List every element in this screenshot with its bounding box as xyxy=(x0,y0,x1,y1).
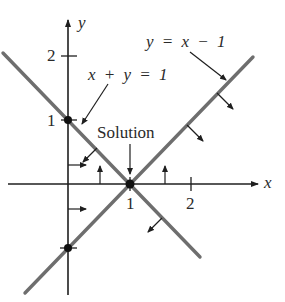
point-0-neg1 xyxy=(64,244,72,252)
equation-label-y-eq-x-minus-1: y = x − 1 xyxy=(146,33,226,50)
normal-arrow-icon xyxy=(148,218,162,232)
normal-arrow-icon xyxy=(83,148,97,162)
x-axis-label: x xyxy=(264,174,272,191)
equation-label-x-plus-y: x + y = 1 xyxy=(88,66,168,83)
point-solution xyxy=(126,180,135,189)
diagram-canvas xyxy=(0,0,285,302)
normal-arrow-icon xyxy=(217,93,233,109)
x-tick-label-2: 2 xyxy=(186,195,195,212)
y-axis-label: y xyxy=(78,14,86,31)
label-pointer-x-plus-y xyxy=(82,84,108,124)
normal-arrow-icon xyxy=(187,125,203,141)
line-y-equals-x-minus-1 xyxy=(25,57,253,293)
x-tick-label-1: 1 xyxy=(126,195,135,212)
y-tick-label-2: 2 xyxy=(47,47,56,64)
y-tick-label-1: 1 xyxy=(47,112,56,129)
solution-label: Solution xyxy=(97,124,155,141)
point-0-1 xyxy=(64,116,72,124)
label-pointer-y-eq-x-minus-1 xyxy=(190,52,226,80)
